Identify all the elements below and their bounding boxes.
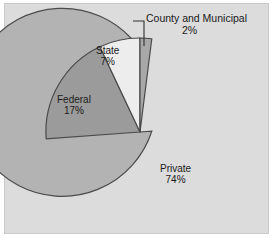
pie-chart-svg bbox=[0, 0, 274, 244]
pie-slice-county-and-municipal[interactable] bbox=[140, 38, 152, 132]
pie-chart-figure: Private 74% Federal 17% State 7% County … bbox=[0, 0, 274, 244]
